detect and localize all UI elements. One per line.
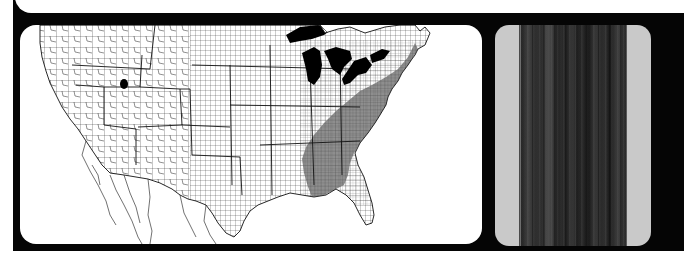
range-map [20,25,482,244]
bottom-margin [0,251,684,256]
utah-disjunct [120,79,128,89]
florida-disjunct [391,200,397,207]
range-map-panel [20,25,482,244]
top-margin-panel [15,0,684,13]
tree-bark-photo [521,25,626,246]
bark-photo-panel [495,25,651,246]
left-margin [0,0,13,256]
bark-edge-right [623,25,627,246]
bark-edge-left [519,25,523,246]
